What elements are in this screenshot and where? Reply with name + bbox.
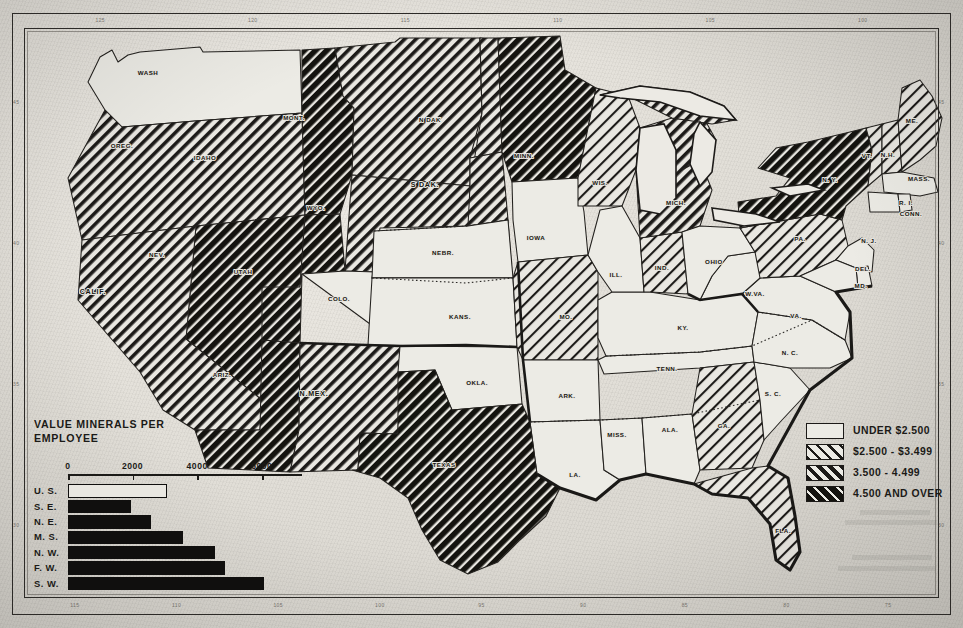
ruler-tick-35: 35 bbox=[13, 381, 19, 387]
chart-bar-row: N. W. bbox=[34, 545, 334, 560]
ghost-mark-4 bbox=[838, 566, 936, 571]
legend-label: $2.500 - $3.499 bbox=[853, 446, 933, 457]
ruler-tick-105: 105 bbox=[705, 17, 715, 23]
legend-label: 4.500 AND OVER bbox=[853, 488, 943, 499]
chart-x-tick bbox=[133, 475, 135, 480]
ruler-tick-100: 100 bbox=[375, 602, 385, 608]
chart-bar-track bbox=[65, 529, 334, 544]
legend-row: 3.500 - 4.499 bbox=[806, 462, 952, 483]
legend-swatch-3500-4499 bbox=[806, 465, 844, 481]
ruler-tick-90: 90 bbox=[580, 602, 586, 608]
ruler-tick-85: 85 bbox=[682, 602, 688, 608]
chart-bar-label: N. W. bbox=[34, 547, 65, 558]
chart-bar-label: S. W. bbox=[34, 578, 65, 589]
ruler-tick-35: 35 bbox=[938, 381, 944, 387]
chart-bar bbox=[68, 546, 215, 559]
chart-x-tick-label: 2000 bbox=[122, 461, 143, 471]
ruler-latitude-left: 45403530 bbox=[13, 31, 25, 595]
chart-x-tick bbox=[68, 475, 70, 480]
ruler-tick-45: 45 bbox=[938, 99, 944, 105]
chart-bar bbox=[68, 531, 183, 544]
chart-bar-track bbox=[65, 514, 334, 529]
legend-swatch-2500-3499 bbox=[806, 444, 844, 460]
chart-bar-track bbox=[65, 560, 334, 575]
ruler-latitude-right: 45403530 bbox=[938, 31, 950, 595]
chart-bar-label: N. E. bbox=[34, 516, 65, 527]
ruler-tick-95: 95 bbox=[478, 602, 484, 608]
ruler-tick-45: 45 bbox=[13, 99, 19, 105]
chart-bar-track bbox=[65, 575, 334, 590]
ruler-tick-40: 40 bbox=[13, 240, 19, 246]
map-legend: UNDER $2.500$2.500 - $3.4993.500 - 4.499… bbox=[806, 420, 952, 504]
ruler-longitude-bottom: 1151101051009590858075 bbox=[24, 602, 939, 612]
chart-bar bbox=[68, 515, 151, 528]
chart-x-tick-label: 4000 bbox=[187, 461, 208, 471]
chart-bar-label: F. W. bbox=[34, 562, 65, 573]
ruler-longitude-top: 125120115110105100 bbox=[24, 17, 939, 27]
legend-label: 3.500 - 4.499 bbox=[853, 467, 920, 478]
chart-bar-label: M. S. bbox=[34, 531, 65, 542]
chart-bar bbox=[68, 561, 225, 574]
chart-bar bbox=[68, 500, 131, 513]
ruler-tick-115: 115 bbox=[70, 602, 79, 608]
chart-x-axis: 0200040006000 bbox=[68, 461, 294, 483]
chart-bar-label: S. E. bbox=[34, 501, 65, 512]
ruler-tick-110: 110 bbox=[172, 602, 181, 608]
chart-bars: U. S.S. E.N. E.M. S.N. W.F. W.S. W. bbox=[34, 483, 334, 591]
chart-bar-row: N. E. bbox=[34, 514, 334, 529]
ruler-tick-105: 105 bbox=[273, 602, 283, 608]
legend-swatch-4500-over bbox=[806, 486, 844, 502]
chart-bar-track bbox=[65, 545, 334, 560]
chart-bar-track bbox=[65, 498, 334, 513]
chart-title: VALUE MINERALS PER EMPLOYEE bbox=[34, 418, 334, 445]
ruler-tick-100: 100 bbox=[858, 17, 868, 23]
chart-x-tick-label: 6000 bbox=[251, 461, 272, 471]
chart-bar-row: F. W. bbox=[34, 560, 334, 575]
chart-bar-row: U. S. bbox=[34, 483, 334, 498]
bar-chart-panel: VALUE MINERALS PER EMPLOYEE 020004000600… bbox=[34, 418, 334, 591]
chart-x-tick bbox=[262, 475, 264, 480]
ruler-tick-120: 120 bbox=[248, 17, 258, 23]
legend-swatch-under-2500 bbox=[806, 423, 844, 439]
map-page: WASHOREG.IDAHOMONT.WYO.N DAKS DAK.NEBR.C… bbox=[0, 0, 963, 628]
chart-bar-label: U. S. bbox=[34, 485, 65, 496]
ghost-mark-2 bbox=[845, 520, 937, 525]
chart-axis-line bbox=[68, 474, 302, 476]
ruler-tick-40: 40 bbox=[938, 240, 944, 246]
ghost-mark-1 bbox=[860, 510, 930, 515]
legend-row: $2.500 - $3.499 bbox=[806, 441, 952, 462]
ruler-tick-115: 115 bbox=[401, 17, 410, 23]
legend-label: UNDER $2.500 bbox=[853, 425, 930, 436]
chart-bar-row: S. E. bbox=[34, 498, 334, 513]
chart-bar bbox=[68, 484, 167, 497]
legend-row: 4.500 AND OVER bbox=[806, 483, 952, 504]
ruler-tick-75: 75 bbox=[885, 602, 891, 608]
ruler-tick-110: 110 bbox=[553, 17, 562, 23]
chart-x-tick-label: 0 bbox=[65, 461, 70, 471]
chart-bar bbox=[68, 577, 264, 590]
chart-bar-row: S. W. bbox=[34, 575, 334, 590]
ruler-tick-30: 30 bbox=[13, 522, 19, 528]
legend-row: UNDER $2.500 bbox=[806, 420, 952, 441]
ruler-tick-125: 125 bbox=[95, 17, 105, 23]
ruler-tick-30: 30 bbox=[938, 522, 944, 528]
ghost-mark-3 bbox=[852, 555, 932, 560]
chart-bar-track bbox=[65, 483, 334, 498]
ruler-tick-80: 80 bbox=[783, 602, 789, 608]
chart-bar-row: M. S. bbox=[34, 529, 334, 544]
chart-x-tick bbox=[197, 475, 199, 480]
